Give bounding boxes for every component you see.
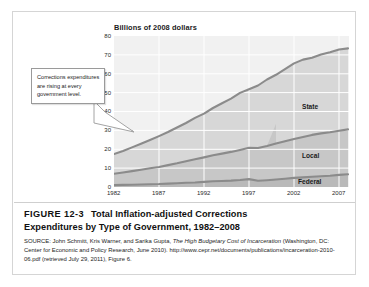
chart-axis-title: Billions of 2008 dollars: [114, 23, 197, 32]
figure-title-line1: Total Inflation-adjusted Corrections: [91, 209, 247, 219]
callout-text: Corrections expenditures are rising at e…: [37, 73, 101, 99]
y-tick-70: 70: [97, 52, 111, 58]
source-title-part2: Incarceration: [247, 238, 281, 244]
caption-divider: [14, 202, 355, 203]
y-tick-80: 80: [97, 33, 111, 39]
source-title-part1: The High Budgetary Cost of: [173, 238, 246, 244]
figure-number: FIGURE 12-3: [24, 209, 84, 219]
figure-heading: FIGURE 12-3Total Inflation-adjusted Corr…: [24, 208, 347, 234]
x-tick-2007: 2007: [332, 190, 345, 196]
y-tick-0: 0: [97, 184, 111, 190]
caption-block: FIGURE 12-3Total Inflation-adjusted Corr…: [24, 208, 347, 264]
chart-area: Billions of 2008 dollars 80 70 60 50 40 …: [13, 12, 355, 197]
callout-pointer-icon: [93, 100, 137, 134]
source-prefix: SOURCE: John Schmitt, Kris Warner, and S…: [24, 238, 173, 244]
y-tick-10: 10: [97, 165, 111, 171]
series-label-federal: Federal: [298, 178, 321, 185]
x-tick-2002: 2002: [287, 190, 300, 196]
x-tick-1997: 1997: [242, 190, 255, 196]
x-tick-1992: 1992: [197, 190, 210, 196]
figure-title-line2: Expenditures by Type of Government, 1982…: [24, 221, 347, 234]
x-tick-1987: 1987: [152, 190, 165, 196]
callout-box: Corrections expenditures are rising at e…: [31, 68, 105, 104]
plot-canvas: [114, 36, 349, 187]
y-tick-20: 20: [97, 146, 111, 152]
stacked-area-svg: [114, 36, 349, 187]
x-tick-1982: 1982: [107, 190, 120, 196]
figure-container: Billions of 2008 dollars 80 70 60 50 40 …: [12, 11, 356, 275]
series-label-state: State: [302, 103, 318, 110]
figure-source: SOURCE: John Schmitt, Kris Warner, and S…: [24, 237, 347, 264]
x-axis: 1982 1987 1992 1997 2002 2007: [114, 190, 349, 200]
series-label-local: Local: [302, 152, 319, 159]
